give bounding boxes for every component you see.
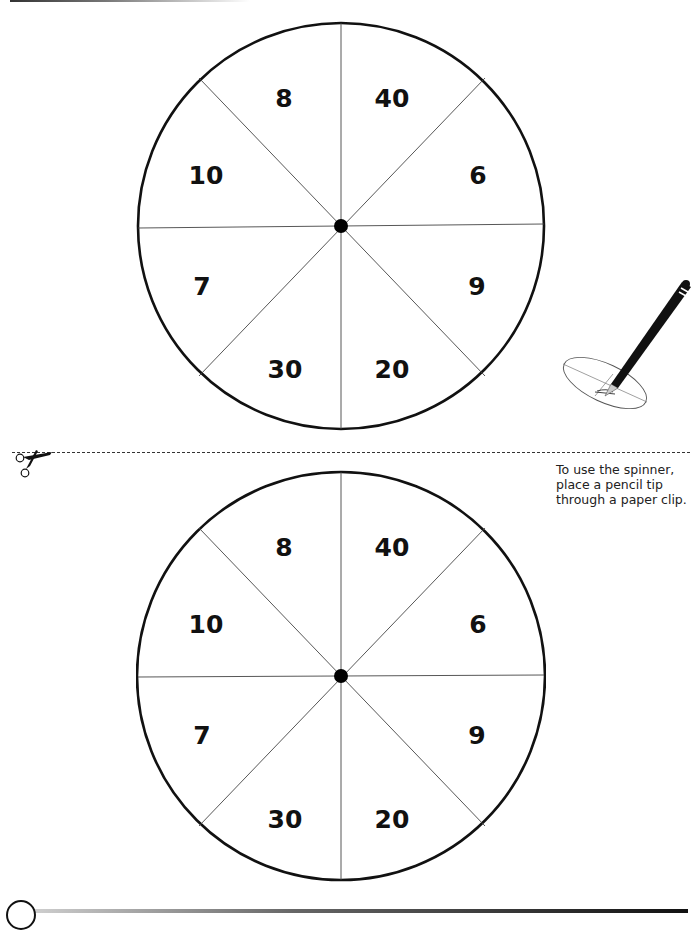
section-label: 10 xyxy=(189,161,224,190)
instructions-line: place a pencil tip xyxy=(556,477,696,492)
section-label: 40 xyxy=(375,533,410,562)
instructions-text: To use the spinner, place a pencil tip t… xyxy=(556,462,696,507)
spinner-center-dot xyxy=(334,219,348,233)
page-number-circle xyxy=(6,900,36,930)
spinner-center-dot xyxy=(334,669,348,683)
section-label: 7 xyxy=(193,272,210,301)
instructions-line: through a paper clip. xyxy=(556,492,696,507)
pencil-paperclip-spinner-icon xyxy=(555,278,695,422)
section-label: 6 xyxy=(469,610,486,639)
top-decorative-bar xyxy=(10,0,250,2)
section-label: 9 xyxy=(468,272,485,301)
section-label: 20 xyxy=(375,805,410,834)
spinner-top: 8 40 6 9 20 30 7 10 xyxy=(136,21,546,431)
section-label: 7 xyxy=(193,721,210,750)
bottom-decorative-bar xyxy=(32,909,688,913)
instructions-line: To use the spinner, xyxy=(556,462,696,477)
section-label: 8 xyxy=(275,84,292,113)
section-label: 30 xyxy=(268,805,303,834)
section-label: 6 xyxy=(469,161,486,190)
spinner-wheel: 8 40 6 9 20 30 7 10 xyxy=(136,21,546,431)
section-label: 30 xyxy=(268,355,303,384)
section-label: 10 xyxy=(189,610,224,639)
spinner-wheel: 8 40 6 9 20 30 7 10 xyxy=(136,470,546,882)
scissors-icon xyxy=(14,446,56,486)
section-label: 20 xyxy=(375,355,410,384)
section-label: 40 xyxy=(375,84,410,113)
spinner-bottom: 8 40 6 9 20 30 7 10 xyxy=(136,470,546,882)
cut-line xyxy=(12,452,690,453)
section-label: 8 xyxy=(275,533,292,562)
section-label: 9 xyxy=(468,721,485,750)
